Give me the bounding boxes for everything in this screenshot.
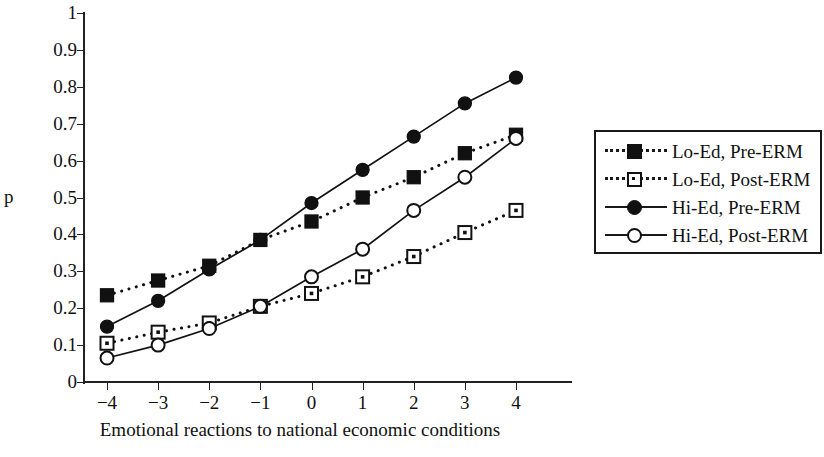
data-point-marker [356,243,369,256]
data-point-marker [407,171,420,184]
data-point-marker [254,300,267,313]
data-point-marker [152,274,165,287]
legend-swatch-square-filled-dotted-icon [605,140,667,162]
legend-swatch-circle-open-solid-icon [605,224,667,246]
y-tick-label: 0.3 [31,261,77,280]
y-axis-title: p [4,187,14,206]
data-point-marker [509,132,522,145]
data-point-marker [152,326,165,339]
series-hi-ed-pre-erm [101,71,523,333]
x-tick-label: −4 [87,392,127,414]
y-tick-mark [77,198,85,199]
data-point-marker [509,71,522,84]
data-point-marker [101,320,114,333]
y-tick-mark [77,234,85,235]
data-point-marker [356,270,369,283]
data-point-marker [407,130,420,143]
data-point-marker [305,287,318,300]
series-line [107,135,516,295]
data-point-marker [458,147,471,160]
data-point-marker [203,259,216,272]
x-tick-mark [312,382,313,390]
x-tick-label: 4 [496,392,536,414]
data-point-marker [152,339,165,352]
legend-entry-hi-ed-post-erm: Hi-Ed, Post-ERM [596,221,820,249]
x-tick-mark [414,382,415,390]
data-point-marker [356,163,369,176]
data-point-marker [101,352,114,365]
x-tick-mark [516,382,517,390]
y-tick-label: 1 [31,3,77,22]
x-axis-title: Emotional reactions to national economic… [30,419,570,441]
data-point-marker [305,197,318,210]
legend-label: Lo-Ed, Pre-ERM [667,141,803,162]
y-tick-mark [77,50,85,51]
data-point-marker [254,233,267,246]
data-point-marker [458,97,471,110]
data-point-marker [305,215,318,228]
data-point-marker [254,233,267,246]
y-tick-label: 0.6 [31,151,77,170]
legend-entry-lo-ed-post-erm: Lo-Ed, Post-ERM [596,165,820,193]
x-tick-mark [465,382,466,390]
series-hi-ed-post-erm [101,132,523,365]
y-tick-mark [77,161,85,162]
data-point-marker [509,128,522,141]
legend-label: Lo-Ed, Post-ERM [667,169,810,190]
y-tick-label: 0.4 [31,224,77,243]
legend-label: Hi-Ed, Post-ERM [667,225,808,246]
x-tick-mark [260,382,261,390]
x-tick-label: 1 [343,392,383,414]
x-tick-label: 0 [292,392,332,414]
y-tick-mark [77,345,85,346]
y-tick-mark [77,13,85,14]
x-tick-mark [158,382,159,390]
y-tick-label: 0.9 [31,40,77,59]
legend-entry-lo-ed-pre-erm: Lo-Ed, Pre-ERM [596,137,820,165]
y-tick-mark [77,124,85,125]
data-point-marker [152,294,165,307]
x-tick-mark [209,382,210,390]
x-tick-label: 3 [445,392,485,414]
y-tick-mark [77,87,85,88]
data-point-marker [203,263,216,276]
series-lo-ed-pre-erm [101,128,523,302]
chart-legend: Lo-Ed, Pre-ERM Lo-Ed, Post-ERM Hi-Ed, Pr… [594,130,822,254]
y-tick-label: 0.2 [31,298,77,317]
data-point-marker [254,300,267,313]
y-tick-mark [77,271,85,272]
y-tick-label: 0 [31,372,77,391]
y-tick-label: 0.1 [31,335,77,354]
data-point-marker [509,204,522,217]
x-tick-mark [363,382,364,390]
legend-label: Hi-Ed, Pre-ERM [667,197,801,218]
y-tick-label: 0.5 [31,188,77,207]
data-point-marker [458,171,471,184]
y-tick-label: 0.7 [31,114,77,133]
x-axis-line [83,381,572,383]
data-point-marker [407,204,420,217]
x-tick-label: −2 [189,392,229,414]
data-point-marker [101,337,114,350]
series-line [107,78,516,327]
data-point-marker [458,226,471,239]
data-point-marker [407,250,420,263]
series-line [107,139,516,359]
data-point-marker [305,270,318,283]
y-tick-mark [77,382,85,383]
y-axis-tick-labels: 00.10.20.30.40.50.60.70.80.91 [20,0,77,457]
data-point-marker [356,191,369,204]
x-tick-label: −1 [240,392,280,414]
y-tick-label: 0.8 [31,77,77,96]
x-tick-label: −3 [138,392,178,414]
data-point-marker [203,322,216,335]
x-tick-label: 2 [394,392,434,414]
series-line [107,210,516,343]
x-tick-mark [107,382,108,390]
chart-figure: p 00.10.20.30.40.50.60.70.80.91 −4−3−2−1… [0,0,824,457]
legend-swatch-square-open-dotted-icon [605,168,667,190]
legend-swatch-circle-filled-solid-icon [605,196,667,218]
y-tick-mark [77,308,85,309]
data-point-marker [203,316,216,329]
data-point-marker [101,289,114,302]
